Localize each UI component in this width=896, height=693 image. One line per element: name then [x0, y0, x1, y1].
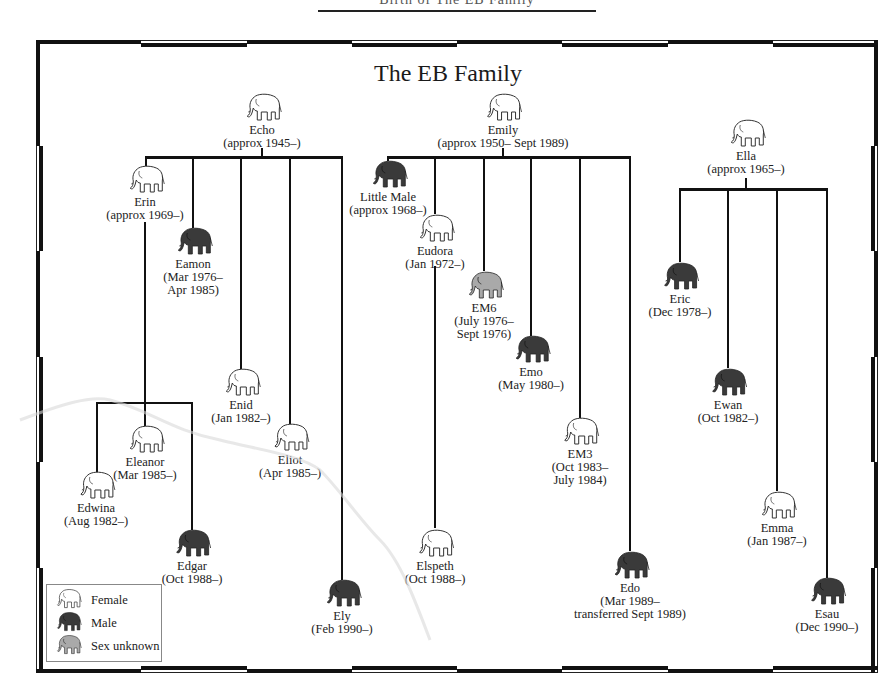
legend-item-female: Female — [53, 589, 128, 611]
elephant-outline-icon — [405, 213, 464, 243]
node-name: EM6 — [472, 301, 497, 315]
node-esau: Esau (Dec 1990–) — [796, 576, 859, 634]
elephant-black-icon — [349, 159, 426, 189]
tree-line — [579, 156, 581, 418]
node-dates: (Oct 1988–) — [162, 572, 223, 586]
node-dates-2: Apr 1985) — [167, 283, 219, 297]
node-dates: (May 1980–) — [498, 378, 564, 392]
node-name: Eudora — [417, 244, 453, 258]
node-name: Echo — [249, 123, 275, 137]
node-em3: EM3 (Oct 1983–July 1984) — [552, 416, 609, 487]
node-name: Ewan — [714, 398, 742, 412]
node-emily: Emily (approx 1950– Sept 1989) — [438, 92, 569, 150]
elephant-outline-icon — [259, 422, 321, 452]
node-em6: EM6 (July 1976–Sept 1976) — [454, 270, 513, 341]
tree-line — [191, 402, 193, 530]
node-dates-2: transferred Sept 1989) — [574, 607, 686, 621]
node-dates: (Aug 1982–) — [64, 514, 128, 528]
tree-line — [289, 156, 291, 424]
node-eric: Eric (Dec 1978–) — [649, 261, 712, 319]
node-name: Emo — [519, 365, 543, 379]
node-dates: (approx 1969–) — [106, 208, 183, 222]
node-ewan: Ewan (Oct 1982–) — [698, 367, 759, 425]
elephant-outline-icon — [53, 588, 91, 613]
node-edgar: Edgar (Oct 1988–) — [162, 528, 223, 586]
elephant-outline-icon — [106, 164, 183, 194]
node-dates: (July 1976– — [454, 314, 513, 328]
elephant-black-icon — [498, 334, 564, 364]
elephant-outline-icon — [113, 424, 177, 454]
node-name: Emily — [488, 123, 519, 137]
elephant-black-icon — [311, 578, 372, 608]
legend: Female Male Sex unknown — [46, 584, 162, 662]
node-dates: (Feb 1990–) — [311, 622, 372, 636]
node-erin: Erin (approx 1969–) — [106, 164, 183, 222]
elephant-black-icon — [649, 261, 712, 291]
tree-line — [434, 156, 436, 214]
node-name: Elspeth — [416, 559, 454, 573]
legend-item-male: Male — [53, 612, 117, 634]
tree-line — [629, 156, 631, 551]
legend-item-unknown: Sex unknown — [53, 635, 159, 657]
node-little-male: Little Male (approx 1968–) — [349, 159, 426, 217]
node-dates: (approx 1965–) — [707, 162, 784, 176]
node-echo: Echo (approx 1945–) — [223, 92, 300, 150]
tree-line — [144, 222, 146, 426]
node-dates: (Dec 1978–) — [649, 305, 712, 319]
elephant-black-icon — [163, 226, 222, 256]
elephant-black-icon — [162, 528, 223, 558]
node-name: Ely — [333, 609, 350, 623]
node-enid: Enid (Jan 1982–) — [211, 367, 270, 425]
tree-line — [727, 188, 729, 368]
node-name: Emma — [761, 521, 794, 535]
tree-line — [192, 156, 194, 228]
node-name: Edgar — [177, 559, 207, 573]
node-dates-2: July 1984) — [553, 473, 606, 487]
node-dates: (Mar 1989– — [600, 594, 659, 608]
node-name: Erin — [134, 195, 156, 209]
node-name: Edo — [620, 581, 640, 595]
node-dates: (Mar 1976– — [163, 270, 222, 284]
elephant-outline-icon — [405, 528, 466, 558]
node-eudora: Eudora (Jan 1972–) — [405, 213, 464, 271]
node-dates: (Mar 1985–) — [113, 468, 177, 482]
elephant-black-icon — [574, 550, 686, 580]
node-dates: (Oct 1982–) — [698, 411, 759, 425]
elephant-outline-icon — [707, 118, 784, 148]
elephant-outline-icon — [747, 490, 806, 520]
tree-line — [96, 402, 98, 472]
elephant-outline-icon — [552, 416, 609, 446]
node-emo: Emo (May 1980–) — [498, 334, 564, 392]
node-name: Enid — [229, 398, 253, 412]
node-eliot: Eliot (Apr 1985–) — [259, 422, 321, 480]
node-dates: (Oct 1988–) — [405, 572, 466, 586]
node-name: Little Male — [360, 190, 416, 204]
elephant-outline-icon — [223, 92, 300, 122]
node-emma: Emma (Jan 1987–) — [747, 490, 806, 548]
node-dates: (Apr 1985–) — [259, 466, 321, 480]
node-name: Edwina — [77, 501, 115, 515]
node-dates: (Jan 1987–) — [747, 534, 806, 548]
ella-sibling-bar — [680, 188, 828, 191]
legend-label: Male — [91, 616, 117, 631]
node-dates: (Dec 1990–) — [796, 620, 859, 634]
node-name: Eliot — [278, 453, 302, 467]
tree-line — [144, 402, 146, 426]
node-name: Eric — [670, 292, 691, 306]
node-eleanor: Eleanor (Mar 1985–) — [113, 424, 177, 482]
elephant-gray-icon — [454, 270, 513, 300]
node-dates: (Oct 1983– — [552, 460, 609, 474]
tree-line — [826, 188, 828, 578]
node-name: Eamon — [175, 257, 210, 271]
node-ely: Ely (Feb 1990–) — [311, 578, 372, 636]
node-edo: Edo (Mar 1989–transferred Sept 1989) — [574, 550, 686, 621]
tree-line — [240, 156, 242, 369]
legend-label: Female — [91, 593, 128, 608]
elephant-black-icon — [698, 367, 759, 397]
tree-line — [341, 156, 343, 580]
node-name: Ella — [736, 149, 756, 163]
node-eamon: Eamon (Mar 1976–Apr 1985) — [163, 226, 222, 297]
node-elspeth: Elspeth (Oct 1988–) — [405, 528, 466, 586]
tree-line — [776, 188, 778, 491]
elephant-outline-icon — [438, 92, 569, 122]
